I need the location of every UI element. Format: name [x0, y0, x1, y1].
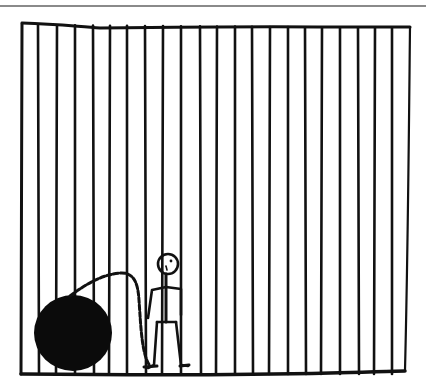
- left-foot: [144, 366, 157, 367]
- prison-bar: [269, 27, 270, 374]
- mouth: [166, 266, 167, 270]
- prison-bar: [305, 27, 306, 374]
- head: [158, 254, 178, 274]
- prison-bar: [145, 26, 146, 374]
- left-leg: [148, 322, 157, 368]
- frame-left: [21, 24, 22, 374]
- prison-bar: [358, 28, 359, 374]
- frame-bottom: [21, 371, 405, 375]
- frame-top: [22, 23, 410, 28]
- prison-bar: [252, 27, 253, 374]
- prison-bar: [374, 28, 375, 374]
- frame-right: [405, 27, 410, 370]
- prison-bar: [216, 27, 217, 374]
- prison-bar: [200, 26, 201, 374]
- right-foot: [180, 365, 189, 366]
- prison-bar: [321, 27, 322, 374]
- iron-ball: [34, 295, 112, 371]
- eye: [170, 260, 173, 263]
- comic-panel: [0, 0, 426, 391]
